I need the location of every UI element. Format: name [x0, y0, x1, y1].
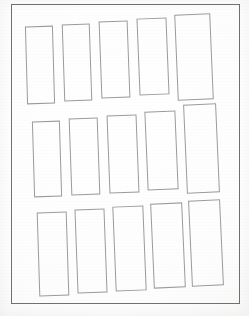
- template-cell[interactable]: [99, 20, 131, 98]
- template-cell[interactable]: [74, 208, 107, 293]
- template-cell[interactable]: [25, 26, 55, 105]
- template-cell[interactable]: [69, 118, 101, 196]
- template-cell[interactable]: [37, 212, 70, 297]
- template-cell[interactable]: [112, 205, 146, 291]
- template-cell[interactable]: [188, 199, 224, 286]
- template-cell[interactable]: [62, 24, 93, 102]
- template-cell[interactable]: [32, 121, 62, 198]
- template-cell[interactable]: [183, 103, 220, 193]
- template-cell[interactable]: [144, 110, 178, 190]
- scanned-sheet: [0, 0, 249, 316]
- template-cell[interactable]: [107, 114, 140, 193]
- template-cell[interactable]: [136, 17, 169, 95]
- template-cell[interactable]: [174, 13, 214, 100]
- template-cell[interactable]: [150, 202, 186, 288]
